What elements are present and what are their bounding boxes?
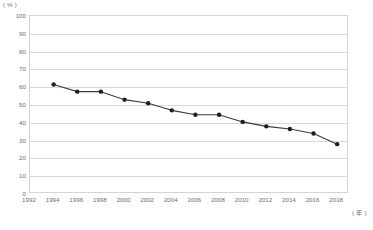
x-axis-tick-label: 2008	[211, 196, 225, 203]
x-axis-tick-label: 1992	[22, 196, 36, 203]
x-axis-tick-label: 2006	[188, 196, 202, 203]
data-point	[170, 108, 174, 112]
data-point	[335, 142, 339, 146]
data-series	[30, 16, 349, 194]
x-axis-tick-label: 2018	[329, 196, 343, 203]
y-axis-tick-labels: 1009080706050403020100	[0, 15, 26, 193]
data-point	[99, 89, 103, 93]
x-axis-tick-labels: 1992199419961998200020022004200620082010…	[0, 196, 373, 210]
data-point	[146, 101, 150, 105]
y-axis-tick-label: 40	[4, 118, 26, 125]
y-axis-tick-label: 100	[4, 12, 26, 19]
x-axis-tick-label: 2016	[306, 196, 320, 203]
x-axis-tick-label: 1994	[46, 196, 60, 203]
data-point	[240, 120, 244, 124]
x-axis-unit-label: ( 年 )	[352, 208, 367, 217]
data-point	[193, 113, 197, 117]
data-point	[51, 82, 55, 86]
y-axis-tick-label: 50	[4, 101, 26, 108]
x-axis-tick-label: 1998	[93, 196, 107, 203]
plot-area	[29, 15, 348, 193]
data-point	[75, 89, 79, 93]
y-axis-tick-label: 80	[4, 47, 26, 54]
y-axis-unit-label: ( % )	[3, 2, 17, 8]
y-axis-tick-label: 90	[4, 29, 26, 36]
data-point	[311, 131, 315, 135]
x-axis-tick-label: 1996	[69, 196, 83, 203]
data-point	[264, 124, 268, 128]
x-axis-tick-label: 2004	[164, 196, 178, 203]
y-axis-tick-label: 20	[4, 154, 26, 161]
x-axis-tick-label: 2002	[140, 196, 154, 203]
data-point	[122, 97, 126, 101]
y-axis-tick-label: 30	[4, 136, 26, 143]
data-point	[288, 127, 292, 131]
y-axis-tick-label: 60	[4, 83, 26, 90]
y-axis-tick-label: 10	[4, 172, 26, 179]
x-axis-tick-label: 2012	[258, 196, 272, 203]
y-axis-tick-label: 70	[4, 65, 26, 72]
x-axis-tick-label: 2000	[117, 196, 131, 203]
x-axis-tick-label: 2014	[282, 196, 296, 203]
data-point	[217, 113, 221, 117]
line-chart: ( % ) 1009080706050403020100 19921994199…	[0, 0, 373, 230]
x-axis-tick-label: 2010	[235, 196, 249, 203]
